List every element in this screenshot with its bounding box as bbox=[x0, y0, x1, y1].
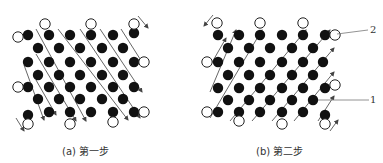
open-circle bbox=[13, 32, 23, 42]
panel-a-step-one bbox=[13, 16, 149, 131]
filled-circle bbox=[298, 30, 308, 40]
open-circle bbox=[13, 82, 23, 92]
filled-circle bbox=[223, 95, 233, 105]
filled-circle bbox=[234, 83, 244, 93]
sorting-diagram bbox=[0, 0, 383, 163]
filled-circle bbox=[44, 30, 54, 40]
filled-circle bbox=[213, 83, 223, 93]
open-circle bbox=[86, 19, 96, 29]
open-circle bbox=[277, 119, 287, 129]
filled-circle bbox=[234, 57, 244, 67]
filled-circle bbox=[108, 82, 118, 92]
open-circle bbox=[139, 107, 149, 117]
filled-circle bbox=[298, 57, 308, 67]
open-circle bbox=[65, 119, 75, 129]
filled-circle bbox=[255, 57, 265, 67]
filled-circle bbox=[108, 57, 118, 67]
filled-circle bbox=[86, 30, 96, 40]
open-circle bbox=[234, 116, 244, 126]
filled-circle bbox=[33, 94, 43, 104]
filled-circle bbox=[277, 57, 287, 67]
filled-circle bbox=[129, 82, 139, 92]
open-circle bbox=[330, 30, 340, 40]
filled-circle bbox=[65, 82, 75, 92]
caption-panel-a: (a) 第一步 bbox=[62, 143, 109, 158]
filled-circle bbox=[255, 30, 265, 40]
filled-circle bbox=[298, 107, 308, 117]
filled-circle bbox=[318, 57, 328, 67]
filled-circle bbox=[129, 57, 139, 67]
open-circle bbox=[139, 57, 149, 67]
filled-circle bbox=[277, 30, 287, 40]
filled-circle bbox=[44, 82, 54, 92]
filled-circle bbox=[75, 43, 85, 53]
open-circle bbox=[129, 19, 139, 29]
filled-circle bbox=[75, 70, 85, 80]
filled-circle bbox=[287, 43, 297, 53]
callout-label-2: 2 bbox=[370, 24, 376, 35]
filled-circle bbox=[33, 70, 43, 80]
filled-circle bbox=[287, 70, 297, 80]
filled-circle bbox=[265, 95, 275, 105]
filled-circle bbox=[234, 30, 244, 40]
filled-circle bbox=[213, 107, 223, 117]
filled-circle bbox=[65, 57, 75, 67]
filled-circle bbox=[255, 83, 265, 93]
arrow-line bbox=[330, 120, 338, 131]
filled-circle bbox=[308, 95, 318, 105]
filled-circle bbox=[244, 95, 254, 105]
filled-circle bbox=[277, 83, 287, 93]
open-circle bbox=[23, 119, 33, 129]
filled-circle bbox=[308, 43, 318, 53]
filled-circle bbox=[86, 57, 96, 67]
filled-circle bbox=[213, 57, 223, 67]
filled-circle bbox=[75, 94, 85, 104]
open-circle bbox=[40, 19, 50, 29]
callout-label-1: 1 bbox=[370, 94, 376, 105]
filled-circle bbox=[108, 107, 118, 117]
filled-circle bbox=[265, 43, 275, 53]
filled-circle bbox=[97, 94, 107, 104]
filled-circle bbox=[277, 107, 287, 117]
filled-circle bbox=[244, 43, 254, 53]
filled-circle bbox=[65, 30, 75, 40]
filled-circle bbox=[298, 83, 308, 93]
open-circle bbox=[320, 119, 330, 129]
open-circle bbox=[298, 18, 308, 28]
filled-circle bbox=[86, 107, 96, 117]
filled-circle bbox=[33, 43, 43, 53]
filled-circle bbox=[308, 70, 318, 80]
filled-circle bbox=[118, 94, 128, 104]
filled-circle bbox=[44, 57, 54, 67]
open-circle bbox=[202, 107, 212, 117]
arrow-line bbox=[80, 29, 140, 118]
filled-circle bbox=[255, 107, 265, 117]
open-circle bbox=[212, 18, 222, 28]
filled-circle bbox=[265, 70, 275, 80]
arrow-line bbox=[138, 16, 148, 28]
filled-circle bbox=[129, 107, 139, 117]
filled-circle bbox=[54, 94, 64, 104]
filled-circle bbox=[44, 107, 54, 117]
filled-circle bbox=[97, 70, 107, 80]
filled-circle bbox=[108, 30, 118, 40]
caption-panel-b: (b) 第二步 bbox=[256, 143, 303, 158]
filled-circle bbox=[23, 30, 33, 40]
callout-leader-line bbox=[337, 30, 368, 34]
filled-circle bbox=[320, 83, 330, 93]
open-circle bbox=[202, 57, 212, 67]
filled-circle bbox=[213, 30, 223, 40]
filled-circle bbox=[223, 70, 233, 80]
open-circle bbox=[108, 117, 118, 127]
filled-circle bbox=[86, 82, 96, 92]
filled-circle bbox=[287, 95, 297, 105]
filled-circle bbox=[54, 70, 64, 80]
panel-b-step-two bbox=[202, 15, 369, 131]
open-circle bbox=[255, 18, 265, 28]
filled-circle bbox=[223, 43, 233, 53]
filled-circle bbox=[23, 57, 33, 67]
filled-circle bbox=[23, 82, 33, 92]
open-circle bbox=[330, 80, 340, 90]
filled-circle bbox=[118, 43, 128, 53]
filled-circle bbox=[320, 30, 330, 40]
